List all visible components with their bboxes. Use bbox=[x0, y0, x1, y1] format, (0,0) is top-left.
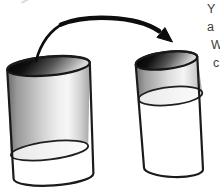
clipped-text-line: c bbox=[213, 56, 219, 70]
clipped-text-line: a bbox=[207, 20, 214, 34]
clipped-text-line: W bbox=[211, 38, 220, 52]
clipped-text-line: Y bbox=[207, 2, 215, 16]
right-glass bbox=[135, 48, 204, 177]
pour-arrow-shaft bbox=[61, 18, 159, 31]
figure-canvas: Y a W c bbox=[0, 0, 220, 193]
left-glass bbox=[6, 53, 93, 186]
pouring-illustration bbox=[0, 0, 220, 193]
